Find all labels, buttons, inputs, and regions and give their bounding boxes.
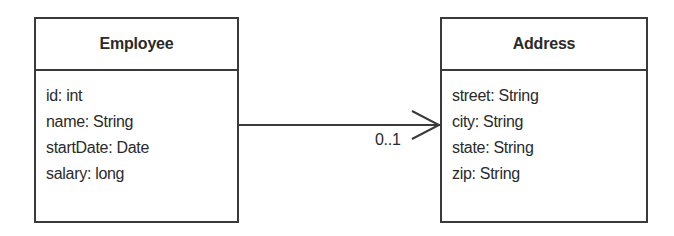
address-attributes: street: String city: String state: Strin… [442, 71, 646, 187]
address-attribute-state: state: String [452, 135, 646, 161]
address-class-box: Address street: String city: String stat… [440, 17, 648, 223]
address-attribute-city: city: String [452, 109, 646, 135]
address-attribute-zip: zip: String [452, 161, 646, 187]
multiplicity-label: 0..1 [375, 131, 401, 149]
address-attribute-street: street: String [452, 83, 646, 109]
address-class-name: Address [442, 19, 646, 71]
